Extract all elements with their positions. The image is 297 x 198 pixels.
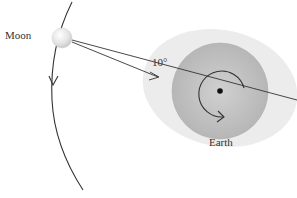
tidal-bulge-diagram: Moon 10° Earth	[0, 0, 297, 198]
orbit-arrow-icon	[49, 76, 58, 85]
moon	[52, 28, 72, 48]
moon-label: Moon	[5, 29, 31, 41]
earth-center-dot	[217, 88, 223, 94]
angle-label: 10°	[152, 56, 167, 68]
earth-label: Earth	[209, 136, 233, 148]
diagram-canvas	[0, 0, 297, 198]
